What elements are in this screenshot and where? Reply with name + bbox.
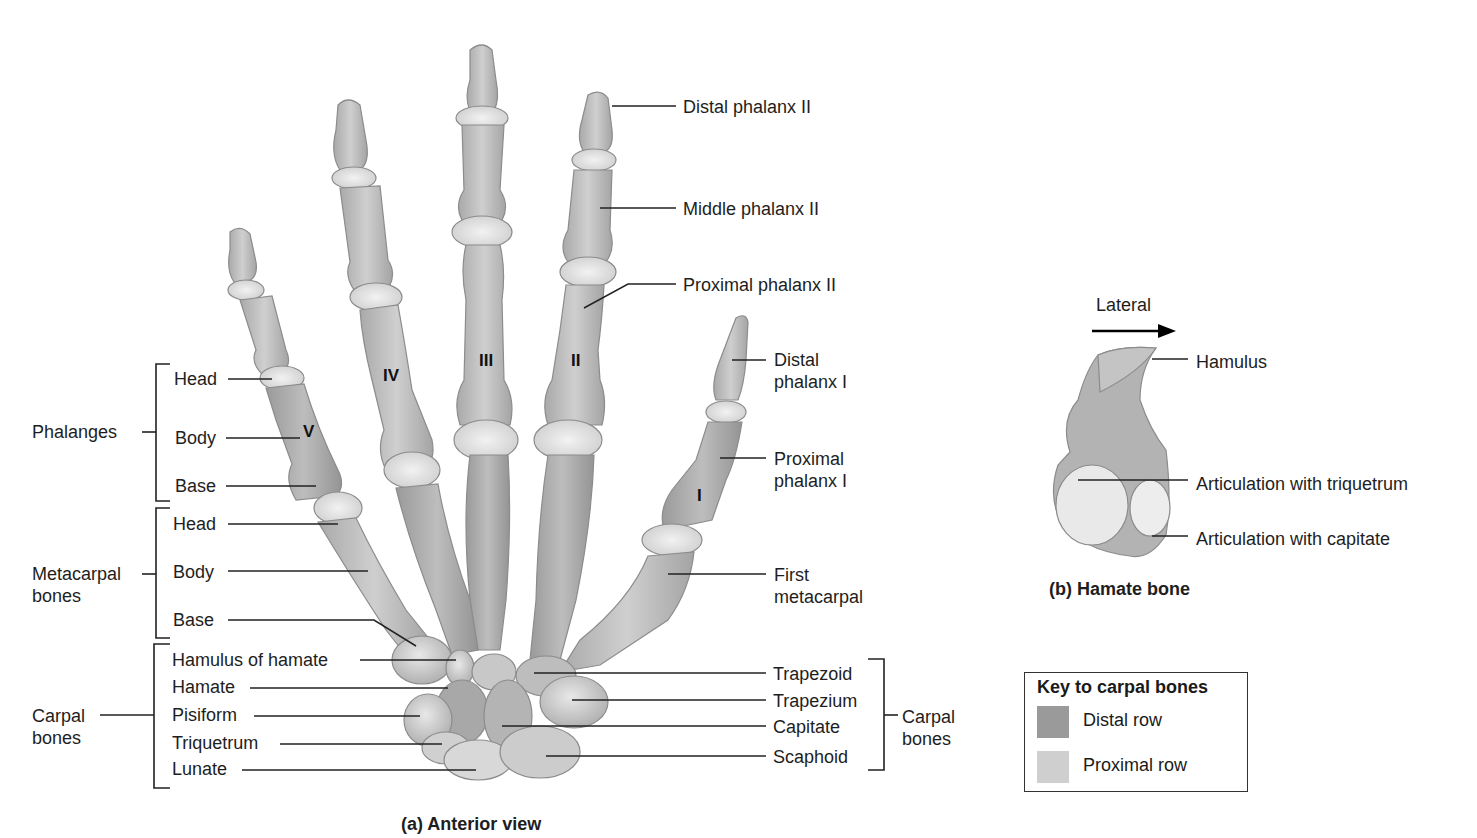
label-phalanx-body: Body <box>175 427 216 449</box>
finger-ii <box>530 92 616 660</box>
label-phalanx-base: Base <box>175 475 216 497</box>
label-metacarpal-head: Head <box>173 513 216 535</box>
key-title: Key to carpal bones <box>1037 677 1208 698</box>
label-distal-phalanx-i: Distal phalanx I <box>774 349 864 393</box>
numeral-i: I <box>697 486 702 506</box>
bracket-phalanges <box>156 364 170 501</box>
label-proximal-phalanx-i: Proximal phalanx I <box>774 448 864 492</box>
lateral-arrow <box>1092 324 1176 338</box>
label-triquetrum: Triquetrum <box>172 732 258 754</box>
label-metacarpal-base: Base <box>173 609 214 631</box>
numeral-ii: II <box>571 351 580 371</box>
label-lateral: Lateral <box>1096 294 1151 316</box>
label-phalanx-head: Head <box>174 368 217 390</box>
label-articulation-capitate: Articulation with capitate <box>1196 528 1390 550</box>
swatch-proximal-row <box>1037 751 1069 783</box>
label-middle-phalanx-ii: Middle phalanx II <box>683 198 819 220</box>
label-lunate: Lunate <box>172 758 227 780</box>
label-pisiform: Pisiform <box>172 704 237 726</box>
caption-hamate-bone: (b) Hamate bone <box>1049 578 1190 600</box>
label-hamate: Hamate <box>172 676 235 698</box>
finger-iii <box>452 45 518 650</box>
numeral-iv: IV <box>383 366 399 386</box>
bracket-carpal-left <box>154 644 170 788</box>
bracket-carpal-right <box>868 659 884 770</box>
label-proximal-phalanx-ii: Proximal phalanx II <box>683 274 836 296</box>
label-distal-phalanx-ii: Distal phalanx II <box>683 96 811 118</box>
numeral-v: V <box>303 422 314 442</box>
key-proximal-row: Proximal row <box>1083 755 1187 776</box>
numeral-iii: III <box>479 351 493 371</box>
label-metacarpal-bones: Metacarpal bones <box>32 563 142 607</box>
caption-anterior-view: (a) Anterior view <box>401 813 541 835</box>
label-trapezium: Trapezium <box>773 690 857 712</box>
label-carpal-bones-left: Carpal bones <box>32 705 102 749</box>
carpal-key-legend: Key to carpal bones Distal row Proximal … <box>1024 672 1248 792</box>
label-phalanges: Phalanges <box>32 421 117 443</box>
bracket-metacarpal <box>156 508 170 638</box>
label-carpal-bones-right: Carpal bones <box>902 706 972 750</box>
hamate-bone-illustration <box>1053 347 1170 556</box>
label-capitate: Capitate <box>773 716 840 738</box>
label-hamulus: Hamulus <box>1196 351 1267 373</box>
swatch-distal-row <box>1037 706 1069 738</box>
label-articulation-triquetrum: Articulation with triquetrum <box>1196 473 1408 495</box>
key-distal-row: Distal row <box>1083 710 1162 731</box>
label-first-metacarpal: First metacarpal <box>774 564 884 608</box>
label-trapezoid: Trapezoid <box>773 663 852 685</box>
label-scaphoid: Scaphoid <box>773 746 848 768</box>
label-metacarpal-body: Body <box>173 561 214 583</box>
label-hamulus-of-hamate: Hamulus of hamate <box>172 649 328 671</box>
